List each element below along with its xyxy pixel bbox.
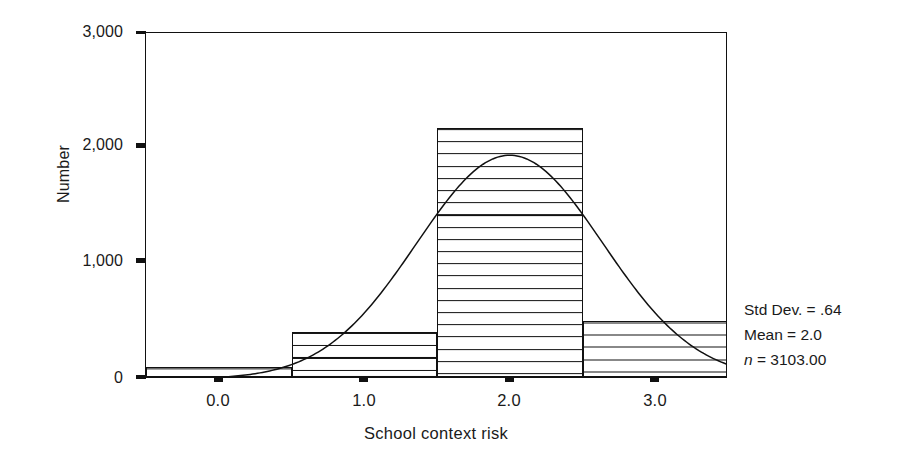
x-tick-label-2: 2.0 bbox=[474, 392, 544, 409]
histogram-bar-1 bbox=[292, 332, 438, 377]
x-tick-mark-3 bbox=[650, 378, 659, 382]
plot-area bbox=[145, 32, 727, 378]
y-tick-label-0: 0 bbox=[43, 370, 123, 386]
std-dev-line: Std Dev. = .64 bbox=[744, 297, 842, 322]
y-tick-label-3000: 3,000 bbox=[43, 24, 123, 40]
histogram-bar-0 bbox=[146, 367, 292, 377]
y-tick-label-2000: 2,000 bbox=[43, 137, 123, 153]
plot-inner bbox=[146, 33, 726, 377]
mean-line: Mean = 2.0 bbox=[744, 322, 842, 347]
x-tick-mark-2 bbox=[505, 378, 514, 382]
histogram-bar-3 bbox=[583, 321, 727, 378]
y-tick-label-1000: 1,000 bbox=[43, 253, 123, 269]
n-symbol: n bbox=[744, 351, 753, 368]
histogram-bar-2 bbox=[437, 128, 583, 377]
x-tick-label-0: 0.0 bbox=[183, 392, 253, 409]
n-value: = 3103.00 bbox=[753, 351, 827, 368]
x-tick-label-3: 3.0 bbox=[620, 392, 690, 409]
x-axis-title: School context risk bbox=[145, 424, 727, 443]
x-tick-mark-0 bbox=[214, 378, 223, 382]
statistics-annotation: Std Dev. = .64 Mean = 2.0 n = 3103.00 bbox=[744, 297, 842, 372]
y-axis-title: Number bbox=[55, 104, 73, 244]
sample-size-line: n = 3103.00 bbox=[744, 347, 842, 372]
x-tick-mark-1 bbox=[359, 378, 368, 382]
histogram-figure: Number 3,000 2,000 1,000 0 0.0 1.0 2.0 3… bbox=[0, 0, 899, 471]
x-tick-label-1: 1.0 bbox=[329, 392, 399, 409]
